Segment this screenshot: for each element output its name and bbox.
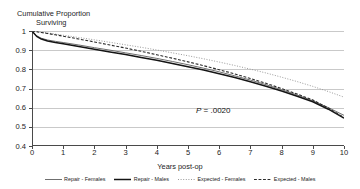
chart-legend: Repair - FemalesRepair - MalesExpected -… (0, 176, 360, 182)
plot-area (32, 31, 344, 146)
x-tick-label: 8 (272, 148, 292, 157)
legend-label: Expected - Females (197, 176, 245, 182)
x-tick-label: 2 (84, 148, 104, 157)
y-tick-label: 0.6 (0, 103, 26, 112)
x-tick-label: 0 (22, 148, 42, 157)
p-value-text: = .0020 (201, 106, 230, 115)
legend-label: Expected - Males (274, 176, 316, 182)
x-tick-label: 5 (178, 148, 198, 157)
x-tick-label: 7 (240, 148, 260, 157)
legend-label: Repair - Males (134, 176, 169, 182)
survival-chart-figure: Cumulative Proportion Surviving 0.40.50.… (0, 0, 360, 189)
x-tick-label: 6 (209, 148, 229, 157)
legend-item[interactable]: Repair - Females (45, 176, 106, 182)
y-tick-label: 0.5 (0, 122, 26, 131)
y-tick-label: 0.9 (0, 46, 26, 55)
y-tick-label: 0.7 (0, 84, 26, 93)
legend-label: Repair - Females (64, 176, 105, 182)
y-tick-label: 0.8 (0, 65, 26, 74)
legend-swatch (254, 177, 271, 182)
curve-expected-males (32, 31, 344, 118)
legend-swatch (114, 177, 131, 182)
x-axis-title: Years post-op (0, 162, 360, 171)
legend-item[interactable]: Repair - Males (114, 176, 169, 182)
legend-item[interactable]: Expected - Females (178, 176, 245, 182)
curve-repair-males (32, 31, 344, 118)
legend-swatch (45, 177, 62, 182)
x-tick-label: 4 (147, 148, 167, 157)
chart-title-line2: Surviving (36, 19, 66, 28)
x-tick-label: 10 (334, 148, 354, 157)
curve-expected-females (32, 31, 344, 97)
legend-item[interactable]: Expected - Males (254, 176, 315, 182)
y-tick-label: 1 (0, 27, 26, 36)
p-value-annotation: P = .0020 (196, 106, 230, 115)
x-tick-label: 1 (53, 148, 73, 157)
x-tick-label: 9 (303, 148, 323, 157)
x-tick-label: 3 (116, 148, 136, 157)
curve-repair-females (32, 31, 344, 115)
legend-swatch (178, 177, 195, 182)
survival-curves (32, 31, 344, 146)
